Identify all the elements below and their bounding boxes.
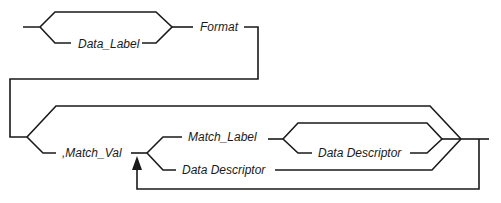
- syntax-diagram: Data_Label Format ,Match_Val Match_Label…: [0, 0, 501, 203]
- inner-data-descriptor-text: Data Descriptor: [318, 146, 402, 160]
- format-text: Format: [200, 20, 239, 34]
- match-choice-branch: [147, 137, 182, 170]
- repeat-arrow-icon: [132, 156, 142, 170]
- match-label-text: Match_Label: [188, 130, 257, 144]
- data-label-text: Data_Label: [78, 37, 140, 51]
- data-descriptor-text: Data Descriptor: [182, 163, 266, 177]
- match-val-text: ,Match_Val: [62, 146, 122, 160]
